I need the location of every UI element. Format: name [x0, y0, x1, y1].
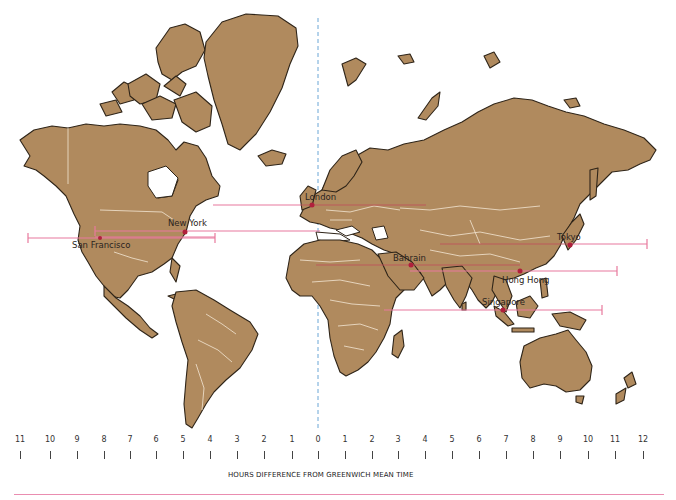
tick-label-e6: 6	[476, 435, 481, 444]
tasmania	[576, 396, 584, 404]
tick-mark	[77, 451, 78, 459]
tick-mark	[398, 451, 399, 459]
tick-label-w6: 6	[153, 435, 158, 444]
iceland	[258, 150, 286, 166]
arctic-islands	[100, 24, 212, 132]
tick-mark	[479, 451, 480, 459]
tick-label-w5: 5	[180, 435, 185, 444]
tick-label-w9: 9	[74, 435, 79, 444]
tick-mark	[643, 451, 644, 459]
new-york-marker	[183, 230, 188, 235]
tick-mark	[156, 451, 157, 459]
tick-label-e7: 7	[503, 435, 508, 444]
london-marker	[310, 203, 315, 208]
city-label-hong-kong: Hong Hong	[502, 275, 549, 285]
tick-label-w1: 1	[289, 435, 294, 444]
world-map	[0, 0, 676, 500]
tick-mark	[237, 451, 238, 459]
new-guinea	[552, 312, 586, 330]
franz-josef	[398, 54, 414, 64]
tick-mark	[264, 451, 265, 459]
tick-label-e11: 11	[610, 435, 620, 444]
tick-mark	[50, 451, 51, 459]
tick-label-w3: 3	[234, 435, 239, 444]
city-label-new-york: New York	[168, 218, 207, 228]
tick-label-w8: 8	[101, 435, 106, 444]
city-label-london: London	[305, 192, 336, 202]
tick-label-e2: 2	[369, 435, 374, 444]
tick-mark	[130, 451, 131, 459]
tick-label-w11: 11	[15, 435, 25, 444]
bottom-rule	[14, 494, 664, 495]
tick-label-e8: 8	[530, 435, 535, 444]
tick-mark	[345, 451, 346, 459]
tick-label-e12: 12	[638, 435, 648, 444]
tick-mark	[183, 451, 184, 459]
tokyo-marker	[568, 243, 573, 248]
svalbard	[342, 58, 366, 86]
central-america	[104, 286, 158, 338]
new-siberian	[564, 98, 580, 108]
tick-label-w4: 4	[207, 435, 212, 444]
city-label-tokyo: Tokyo	[557, 232, 581, 242]
tick-label-e10: 10	[583, 435, 593, 444]
tick-mark	[533, 451, 534, 459]
tick-mark	[292, 451, 293, 459]
city-label-san-francisco: San Francisco	[72, 240, 130, 250]
tick-mark	[104, 451, 105, 459]
tick-mark	[588, 451, 589, 459]
sakhalin	[590, 168, 598, 200]
severnaya-zemlya	[484, 52, 500, 68]
tick-label-e5: 5	[449, 435, 454, 444]
new-zealand	[624, 372, 636, 388]
city-label-bahrain: Bahrain	[393, 253, 426, 263]
tick-mark	[425, 451, 426, 459]
tick-label-w2: 2	[261, 435, 266, 444]
greenland	[204, 14, 298, 150]
new-zealand-south	[616, 388, 626, 404]
florida	[170, 258, 180, 282]
tick-mark	[560, 451, 561, 459]
hong-kong-marker	[518, 269, 523, 274]
tick-mark	[615, 451, 616, 459]
tick-label-zero: 0	[315, 435, 320, 444]
south-america	[172, 290, 258, 428]
tick-mark	[210, 451, 211, 459]
tick-mark	[318, 451, 319, 459]
australia	[520, 330, 592, 392]
tick-mark	[372, 451, 373, 459]
tick-mark	[452, 451, 453, 459]
java	[512, 328, 534, 332]
india	[442, 266, 472, 308]
tick-mark	[20, 451, 21, 459]
madagascar	[392, 330, 404, 358]
tick-label-w7: 7	[127, 435, 132, 444]
tick-mark	[506, 451, 507, 459]
novaya-zemlya	[418, 92, 440, 120]
tick-label-e3: 3	[395, 435, 400, 444]
singapore-marker	[501, 308, 506, 313]
tick-label-e9: 9	[557, 435, 562, 444]
tick-label-e4: 4	[422, 435, 427, 444]
tick-label-e1: 1	[342, 435, 347, 444]
city-label-singapore: Singapore	[482, 297, 525, 307]
tick-label-w10: 10	[45, 435, 55, 444]
axis-title: HOURS DIFFERENCE FROM GREENWICH MEAN TIM…	[228, 471, 413, 479]
sri-lanka	[462, 302, 466, 310]
bahrain-marker	[409, 263, 414, 268]
